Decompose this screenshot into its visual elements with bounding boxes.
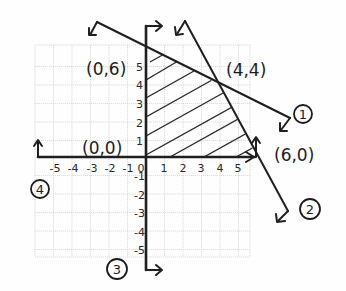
svg-text:1: 1 bbox=[299, 107, 307, 122]
x-tick-label: -3 bbox=[87, 162, 98, 175]
constraint-label-4: 4 bbox=[31, 180, 49, 198]
vertex-label-6-0: (6,0) bbox=[274, 145, 314, 165]
y-tick-label: 2 bbox=[136, 117, 143, 130]
constraint-label-1: 1 bbox=[294, 105, 312, 123]
x-tick-label: -4 bbox=[68, 162, 79, 175]
y-tick-label: -5 bbox=[134, 244, 145, 257]
x-tick-label: 4 bbox=[217, 162, 224, 175]
y-tick-label: -4 bbox=[134, 226, 145, 239]
x-tick-label: 2 bbox=[180, 162, 187, 175]
x-tick-label: -1 bbox=[123, 162, 134, 175]
x-tick-label: -2 bbox=[105, 162, 116, 175]
vertex-label-0-0: (0,0) bbox=[82, 138, 122, 158]
y-axis-tick-labels-positive: 1 2 3 4 5 bbox=[136, 61, 143, 148]
svg-text:4: 4 bbox=[36, 182, 44, 197]
y-tick-label: 1 bbox=[136, 135, 143, 148]
y-tick-label: -2 bbox=[134, 189, 145, 202]
y-tick-label: 5 bbox=[136, 61, 143, 74]
y-tick-label: -3 bbox=[134, 207, 145, 220]
diagram-canvas: -5 -4 -3 -2 -1 0 1 2 3 4 5 1 2 3 4 5 -1 … bbox=[0, 0, 346, 291]
svg-text:2: 2 bbox=[306, 202, 314, 217]
x-tick-label: 3 bbox=[198, 162, 205, 175]
y-tick-label: 3 bbox=[136, 98, 143, 111]
y-tick-label: -1 bbox=[134, 170, 145, 183]
vertex-label-0-6: (0,6) bbox=[86, 59, 126, 79]
constraint-line-2 bbox=[175, 21, 288, 222]
svg-text:3: 3 bbox=[113, 262, 121, 277]
x-tick-label: 1 bbox=[161, 162, 168, 175]
constraint-label-3: 3 bbox=[107, 259, 127, 279]
y-axis-tick-labels-negative: -1 -2 -3 -4 -5 bbox=[134, 170, 145, 257]
x-tick-label: -5 bbox=[50, 162, 61, 175]
x-tick-label: 5 bbox=[235, 162, 242, 175]
y-tick-label: 4 bbox=[136, 79, 143, 92]
vertex-label-4-4: (4,4) bbox=[226, 60, 266, 80]
constraint-label-2: 2 bbox=[300, 199, 320, 219]
graph-svg: -5 -4 -3 -2 -1 0 1 2 3 4 5 1 2 3 4 5 -1 … bbox=[0, 0, 346, 291]
